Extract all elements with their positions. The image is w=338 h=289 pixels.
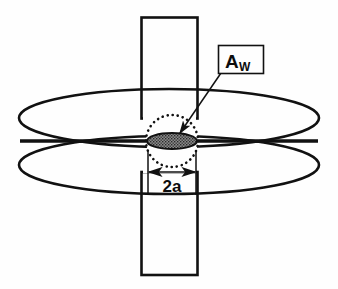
aw-label-subscript: W bbox=[239, 60, 251, 74]
wire-contact-area-diagram: A W 2a bbox=[0, 0, 338, 289]
figure-container: A W 2a bbox=[0, 0, 338, 289]
dimension-label-2a: 2a bbox=[163, 177, 182, 196]
contact-area-aw-ellipse bbox=[147, 133, 197, 149]
aw-label-symbol: A bbox=[225, 51, 239, 72]
